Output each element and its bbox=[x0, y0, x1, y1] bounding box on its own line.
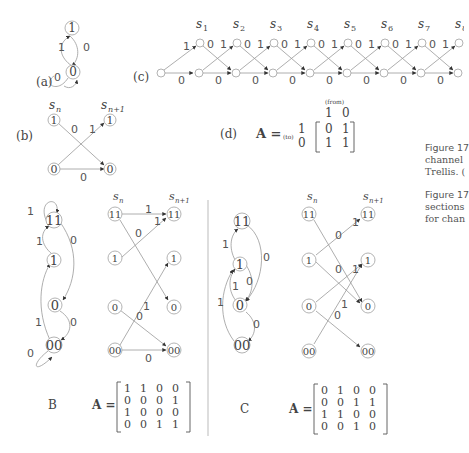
panel-d-matrix: (d) A = (from) (to) 1 0 1 0 0 1 1 1 bbox=[220, 98, 354, 152]
caption-line: Figure 17 bbox=[425, 189, 469, 201]
svg-text:s: s bbox=[381, 17, 387, 31]
panel-C-trellis: s n s n+1 11 1 0 00 11 1 0 00 1 0 0 1 1 … bbox=[302, 190, 384, 358]
svg-text:0: 0 bbox=[326, 74, 333, 87]
svg-text:1: 1 bbox=[51, 114, 58, 127]
svg-text:1: 1 bbox=[112, 253, 118, 264]
svg-text:s: s bbox=[418, 17, 424, 31]
svg-text:0: 0 bbox=[236, 298, 244, 313]
svg-text:0: 0 bbox=[392, 38, 399, 51]
svg-text:1: 1 bbox=[341, 298, 348, 311]
svg-text:1: 1 bbox=[145, 203, 152, 216]
svg-text:0: 0 bbox=[325, 122, 333, 136]
svg-text:s: s bbox=[344, 17, 350, 31]
svg-text:(from): (from) bbox=[325, 98, 344, 105]
svg-text:0: 0 bbox=[71, 123, 78, 136]
svg-text:11: 11 bbox=[168, 209, 181, 220]
node-label: 1 bbox=[68, 21, 76, 35]
svg-text:1: 1 bbox=[405, 38, 412, 51]
svg-text:0: 0 bbox=[136, 310, 143, 323]
svg-text:1: 1 bbox=[171, 253, 177, 264]
svg-text:A =: A = bbox=[91, 398, 116, 412]
svg-text:1: 1 bbox=[172, 418, 179, 431]
edge-label: 0 bbox=[83, 41, 90, 54]
svg-text:6: 6 bbox=[388, 24, 393, 33]
svg-text:0: 0 bbox=[70, 316, 77, 329]
caption-line: for chan bbox=[425, 213, 469, 225]
svg-text:n: n bbox=[313, 197, 318, 205]
svg-text:1: 1 bbox=[306, 255, 312, 266]
svg-text:0: 0 bbox=[437, 74, 444, 87]
svg-text:s: s bbox=[455, 17, 461, 31]
svg-text:3: 3 bbox=[277, 24, 282, 33]
caption-figure-2: Figure 17 sections for chan bbox=[425, 189, 469, 225]
svg-text:11: 11 bbox=[109, 209, 122, 220]
trellis-node-start bbox=[157, 69, 165, 77]
panel-label-B: B bbox=[48, 398, 57, 412]
svg-text:1: 1 bbox=[331, 38, 338, 51]
svg-text:0: 0 bbox=[337, 420, 344, 433]
caption-line: Figure 17 bbox=[425, 142, 469, 154]
svg-text:1: 1 bbox=[217, 296, 224, 309]
svg-text:1: 1 bbox=[298, 122, 306, 136]
edge-1-to-0 bbox=[70, 36, 78, 66]
svg-text:0: 0 bbox=[112, 302, 118, 313]
panel-b-trellis-section: s n s n+1 (b) 1 0 1 0 0 1 0 bbox=[16, 98, 125, 184]
svg-text:1: 1 bbox=[352, 263, 359, 276]
trellis-transitions bbox=[203, 46, 455, 73]
svg-text:0: 0 bbox=[306, 301, 312, 312]
svg-text:0: 0 bbox=[145, 352, 152, 365]
svg-text:0: 0 bbox=[27, 347, 34, 360]
svg-text:s: s bbox=[196, 17, 202, 31]
svg-text:0: 0 bbox=[263, 251, 270, 264]
svg-text:1: 1 bbox=[342, 136, 350, 150]
svg-text:4: 4 bbox=[314, 24, 319, 33]
svg-text:0: 0 bbox=[342, 106, 350, 120]
svg-text:11: 11 bbox=[303, 209, 316, 220]
svg-text:1: 1 bbox=[325, 136, 333, 150]
svg-text:1: 1 bbox=[342, 122, 350, 136]
svg-text:1: 1 bbox=[442, 38, 449, 51]
svg-text:0: 0 bbox=[178, 74, 185, 87]
svg-text:s: s bbox=[101, 98, 107, 112]
trellis-edge-labels: 0 1 0 0 1 0 0 1 0 0 1 0 0 1 0 0 1 0 0 1 … bbox=[207, 38, 449, 87]
svg-text:1: 1 bbox=[365, 255, 371, 266]
svg-text:s: s bbox=[49, 98, 55, 112]
edge-label: 1 bbox=[58, 41, 65, 54]
panel-label-a: (a) bbox=[36, 75, 53, 89]
svg-text:11: 11 bbox=[46, 213, 63, 228]
svg-text:1: 1 bbox=[154, 215, 161, 228]
svg-text:s: s bbox=[270, 17, 276, 31]
svg-text:7: 7 bbox=[425, 24, 430, 33]
caption-line: Trellis. ( bbox=[425, 166, 469, 178]
panel-C-matrix: C A = 0 1 0 0 0 0 1 1 1 1 0 0 0 0 1 0 bbox=[240, 384, 387, 434]
svg-text:0: 0 bbox=[298, 136, 306, 150]
panel-a-state-diagram: 1 0 1 0 0 (a) bbox=[36, 21, 90, 89]
edge-label: 0 bbox=[54, 71, 61, 84]
svg-text:0: 0 bbox=[334, 309, 341, 322]
svg-text:0: 0 bbox=[365, 301, 371, 312]
svg-text:1: 1 bbox=[236, 257, 244, 272]
svg-text:00: 00 bbox=[109, 345, 122, 356]
svg-text:0: 0 bbox=[400, 74, 407, 87]
svg-text:0: 0 bbox=[335, 263, 342, 276]
svg-text:1: 1 bbox=[294, 38, 301, 51]
caption-figure-1: Figure 17 channel Trellis. ( bbox=[425, 142, 469, 178]
svg-text:n+1: n+1 bbox=[175, 197, 190, 205]
svg-text:0: 0 bbox=[80, 171, 87, 184]
svg-text:0: 0 bbox=[171, 302, 177, 313]
svg-text:0: 0 bbox=[335, 229, 342, 242]
svg-text:0: 0 bbox=[51, 163, 58, 176]
svg-text:0: 0 bbox=[253, 318, 260, 331]
svg-text:1: 1 bbox=[36, 235, 43, 248]
svg-text:1: 1 bbox=[183, 40, 190, 53]
panel-c-trellis: (c) 0 1 s 1 s 2 s 3 s 4 bbox=[133, 17, 464, 87]
svg-text:1: 1 bbox=[156, 418, 163, 431]
svg-text:1: 1 bbox=[203, 24, 208, 33]
panel-label-b: (b) bbox=[16, 129, 33, 143]
svg-text:2: 2 bbox=[240, 24, 245, 33]
panel-label-c: (c) bbox=[133, 70, 149, 84]
svg-text:(to): (to) bbox=[283, 133, 294, 140]
svg-text:1: 1 bbox=[325, 106, 333, 120]
svg-text:n: n bbox=[119, 197, 124, 205]
